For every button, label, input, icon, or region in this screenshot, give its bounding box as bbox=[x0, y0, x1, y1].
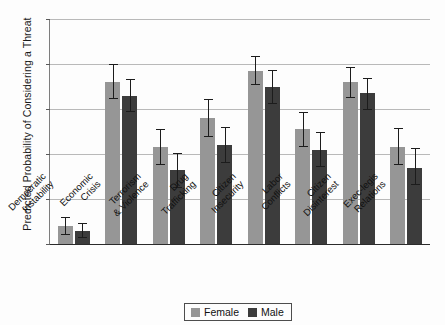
gridline bbox=[50, 19, 430, 20]
error-bar-line bbox=[113, 64, 114, 98]
error-bar-cap-lower bbox=[126, 111, 135, 112]
error-bar-line bbox=[160, 129, 161, 164]
y-axis-tick-mark bbox=[46, 244, 50, 245]
y-axis-tick-mark bbox=[46, 64, 50, 65]
error-bar-line bbox=[350, 67, 351, 96]
legend-item-male: Male bbox=[248, 306, 284, 318]
legend-item-female: Female bbox=[191, 306, 239, 318]
error-bar-line bbox=[398, 128, 399, 164]
error-bar-cap-upper bbox=[299, 112, 308, 113]
error-bar-cap-lower bbox=[299, 146, 308, 147]
error-bar-cap-upper bbox=[173, 153, 182, 154]
error-bar-line bbox=[303, 112, 304, 146]
y-axis-tick-mark bbox=[46, 199, 50, 200]
error-bar-cap-lower bbox=[61, 234, 70, 235]
y-axis-tick-mark bbox=[46, 109, 50, 110]
error-bar-line bbox=[367, 78, 368, 110]
error-bar-line bbox=[320, 132, 321, 167]
chart-legend: FemaleMale bbox=[184, 303, 292, 321]
error-bar-cap-lower bbox=[268, 103, 277, 104]
error-bar-cap-lower bbox=[251, 84, 260, 85]
error-bar-cap-upper bbox=[346, 67, 355, 68]
error-bar-cap-lower bbox=[316, 166, 325, 167]
y-axis-tick-mark bbox=[46, 19, 50, 20]
error-bar-cap-upper bbox=[411, 148, 420, 149]
error-bar-cap-lower bbox=[221, 162, 230, 163]
error-bar-cap-upper bbox=[363, 78, 372, 79]
error-bar-line bbox=[225, 127, 226, 162]
error-bar-cap-upper bbox=[268, 70, 277, 71]
y-axis-tick-mark bbox=[46, 154, 50, 155]
error-bar-cap-upper bbox=[221, 127, 230, 128]
error-bar-cap-upper bbox=[109, 64, 118, 65]
error-bar-cap-upper bbox=[204, 99, 213, 100]
error-bar-cap-lower bbox=[109, 98, 118, 99]
legend-swatch-female bbox=[191, 308, 200, 317]
legend-swatch-male bbox=[248, 308, 257, 317]
error-bar-line bbox=[272, 70, 273, 104]
x-axis-line bbox=[49, 244, 430, 245]
error-bar-cap-lower bbox=[346, 97, 355, 98]
error-bar-cap-upper bbox=[394, 128, 403, 129]
error-bar-cap-upper bbox=[251, 56, 260, 57]
error-bar-cap-lower bbox=[394, 164, 403, 165]
chart-figure: Predicted Probability of Considering a T… bbox=[0, 0, 445, 325]
error-bar-cap-lower bbox=[204, 136, 213, 137]
error-bar-cap-lower bbox=[156, 164, 165, 165]
error-bar-cap-upper bbox=[156, 129, 165, 130]
error-bar-cap-lower bbox=[411, 184, 420, 185]
error-bar-line bbox=[255, 56, 256, 84]
error-bar-line bbox=[415, 148, 416, 184]
error-bar-cap-upper bbox=[126, 79, 135, 80]
bar-male-6 bbox=[360, 93, 375, 244]
gridline bbox=[50, 64, 430, 65]
error-bar-cap-lower bbox=[363, 109, 372, 110]
error-bar-line bbox=[208, 99, 209, 136]
error-bar-cap-upper bbox=[316, 132, 325, 133]
error-bar-line bbox=[130, 79, 131, 112]
legend-label-female: Female bbox=[204, 306, 239, 318]
legend-label-male: Male bbox=[261, 306, 284, 318]
